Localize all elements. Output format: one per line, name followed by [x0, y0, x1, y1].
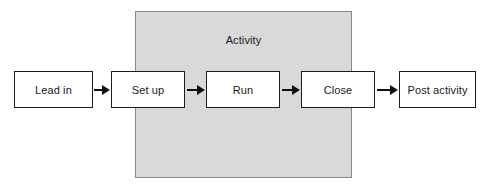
diagram-canvas: Activity Lead in Set up Run Close Post a… — [0, 0, 489, 189]
arrow-head-icon — [102, 85, 110, 95]
activity-region-label: Activity — [135, 33, 352, 47]
arrow-shaft-icon — [282, 89, 292, 91]
node-set-up[interactable]: Set up — [111, 71, 185, 108]
node-run-label: Run — [233, 84, 253, 96]
arrow-head-icon — [197, 85, 205, 95]
node-set-up-label: Set up — [132, 84, 164, 96]
node-post-activity-label: Post activity — [408, 84, 468, 96]
arrow-set-up-to-run — [187, 84, 205, 96]
arrow-lead-in-to-set-up — [94, 84, 110, 96]
node-lead-in[interactable]: Lead in — [14, 71, 93, 108]
arrow-shaft-icon — [377, 89, 390, 91]
node-lead-in-label: Lead in — [35, 84, 72, 96]
arrow-close-to-post-activity — [377, 84, 398, 96]
node-run[interactable]: Run — [206, 71, 280, 108]
node-post-activity[interactable]: Post activity — [399, 71, 476, 108]
arrow-shaft-icon — [187, 89, 197, 91]
node-close[interactable]: Close — [301, 71, 375, 108]
node-close-label: Close — [324, 84, 353, 96]
arrow-shaft-icon — [94, 89, 102, 91]
arrow-run-to-close — [282, 84, 300, 96]
arrow-head-icon — [292, 85, 300, 95]
arrow-head-icon — [390, 85, 398, 95]
